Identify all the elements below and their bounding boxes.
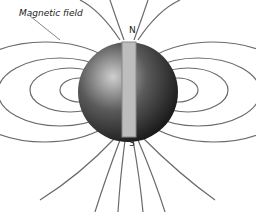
- bar-magnet: [122, 42, 136, 137]
- magnetic-field-label: Magnetic field: [19, 8, 83, 18]
- label-pointer: [30, 16, 60, 40]
- north-pole-label: N: [129, 25, 136, 35]
- earth-field-illustration: [0, 0, 256, 212]
- south-pole-label: S: [129, 138, 135, 148]
- magnetic-field-diagram: Magnetic field N S: [0, 0, 256, 212]
